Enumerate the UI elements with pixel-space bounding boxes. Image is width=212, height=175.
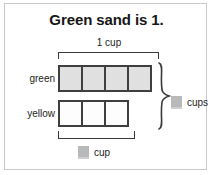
bar-cell-yellow (81, 100, 106, 127)
answer-label-cups: cups (187, 97, 208, 108)
top-bracket (58, 52, 159, 59)
bar-cell-green (104, 65, 129, 92)
row-label-green: green (13, 73, 55, 84)
bar-row-yellow (58, 100, 127, 127)
worksheet-card: Green sand is 1. 1 cup green yellow cups… (4, 3, 207, 170)
bar-cell-yellow (104, 100, 129, 127)
answer-input-cups[interactable] (171, 96, 182, 109)
top-bracket-label: 1 cup (57, 37, 161, 48)
bottom-bracket (58, 131, 135, 139)
answer-label-cup: cup (94, 147, 110, 158)
answer-cup[interactable]: cup (78, 146, 110, 159)
curly-brace-icon (157, 62, 171, 130)
answer-input-cup[interactable] (78, 146, 89, 159)
bar-cell-green (58, 65, 83, 92)
row-label-yellow: yellow (13, 108, 55, 119)
answer-cups[interactable]: cups (171, 96, 208, 109)
bar-cell-yellow (58, 100, 83, 127)
page-title: Green sand is 1. (5, 11, 208, 28)
bar-row-green (58, 65, 150, 92)
bar-cell-green (81, 65, 106, 92)
bar-cell-green (127, 65, 152, 92)
